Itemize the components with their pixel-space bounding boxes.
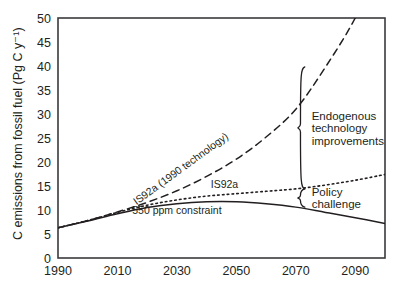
annotation-text-line: challenge xyxy=(312,198,361,210)
y-axis-title: C emissions from fossil fuel (Pg C y⁻¹) xyxy=(11,27,25,240)
y-tick-label: 15 xyxy=(37,180,51,194)
x-tick-label: 2090 xyxy=(341,264,369,278)
series-label-group: IS92a (1990 technology)IS92a550 ppm cons… xyxy=(131,130,239,216)
y-tick-label: 20 xyxy=(37,156,51,170)
y-tick-label: 45 xyxy=(37,36,51,50)
x-tick-label: 2010 xyxy=(104,264,132,278)
chart-figure: C emissions from fossil fuel (Pg C y⁻¹) … xyxy=(0,0,400,296)
y-tick-label-group: 05101520253035404550 xyxy=(37,12,51,266)
annotation-text-line: Endogenous xyxy=(312,110,377,122)
annotation-text-line: improvements xyxy=(312,135,384,147)
y-tick-label: 40 xyxy=(37,60,51,74)
series-inline-label: IS92a xyxy=(211,178,239,190)
x-tick-label: 2030 xyxy=(163,264,191,278)
y-tick-label: 50 xyxy=(37,12,51,26)
y-tick-label: 25 xyxy=(37,132,51,146)
x-tick-label: 2070 xyxy=(282,264,310,278)
x-tick-label: 2050 xyxy=(222,264,250,278)
annotation-policy-challenge: Policychallenge xyxy=(298,186,361,211)
y-tick-label: 5 xyxy=(44,228,51,242)
y-axis-title-text: C emissions from fossil fuel (Pg C y⁻¹) xyxy=(11,27,25,240)
y-tick-label: 10 xyxy=(37,204,51,218)
brace-endogenous-technology-improvements xyxy=(298,67,305,189)
annotation-endogenous-technology-improvements: Endogenoustechnologyimprovements xyxy=(298,67,384,189)
annotation-text-line: technology xyxy=(312,122,368,134)
y-tick-label: 35 xyxy=(37,84,51,98)
series-inline-label: 550 ppm constraint xyxy=(132,204,221,216)
series-inline-label: IS92a (1990 technology) xyxy=(131,130,231,207)
y-tick-label: 30 xyxy=(37,108,51,122)
brace-policy-challenge xyxy=(298,189,305,207)
x-tick-label: 1990 xyxy=(44,264,72,278)
x-tick-label-group: 199020102030205020702090 xyxy=(44,264,369,278)
emissions-line-chart: C emissions from fossil fuel (Pg C y⁻¹) … xyxy=(0,0,400,296)
annotation-text-line: Policy xyxy=(312,186,343,198)
